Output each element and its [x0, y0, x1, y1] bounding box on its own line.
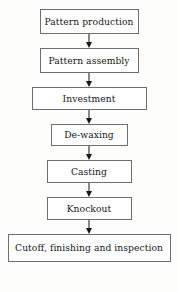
process-step-pattern-assembly: Pattern assembly: [40, 48, 139, 73]
process-step-de-waxing: De-waxing: [51, 124, 128, 146]
process-step-knockout: Knockout: [47, 197, 132, 220]
arrow-head: [86, 118, 92, 124]
down-arrow-icon: [85, 220, 94, 234]
arrow-head: [86, 228, 92, 234]
arrow-head: [86, 81, 92, 87]
arrow-head: [86, 42, 92, 48]
process-step-label: De-waxing: [64, 130, 114, 139]
process-step-label: Casting: [71, 167, 107, 176]
process-step-investment: Investment: [32, 87, 147, 110]
down-arrow-icon: [85, 146, 94, 160]
process-step-label: Pattern assembly: [48, 56, 129, 65]
arrow-head: [86, 191, 92, 197]
process-step-label: Pattern production: [44, 17, 133, 26]
process-flowchart: Pattern productionPattern assemblyInvest…: [0, 0, 178, 292]
process-step-casting: Casting: [47, 160, 132, 183]
process-step-cutoff-finishing-inspection: Cutoff, finishing and inspection: [8, 234, 171, 262]
process-step-label: Cutoff, finishing and inspection: [15, 243, 163, 252]
process-step-label: Investment: [63, 94, 116, 103]
down-arrow-icon: [85, 110, 94, 124]
down-arrow-icon: [85, 183, 94, 197]
down-arrow-icon: [85, 73, 94, 87]
down-arrow-icon: [85, 34, 94, 48]
process-step-label: Knockout: [67, 204, 112, 213]
arrow-head: [86, 154, 92, 160]
process-step-pattern-production: Pattern production: [40, 9, 139, 34]
